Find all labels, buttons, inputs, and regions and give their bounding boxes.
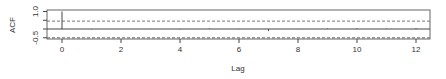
x-tick-label: 10 [353,45,362,54]
x-tick-label: 0 [60,45,65,54]
x-axis: 024681012 [60,39,421,54]
x-tick-label: 8 [296,45,301,54]
acf-chart: 024681012 -0.51.0 Lag ACF [0,0,446,79]
y-tick-label: 1.0 [31,5,40,17]
x-tick-label: 6 [237,45,242,54]
y-tick-label: -0.5 [31,30,40,44]
x-tick-label: 12 [412,45,421,54]
x-tick-label: 4 [178,45,183,54]
y-axis-title: ACF [8,17,17,33]
x-axis-title: Lag [231,64,244,73]
plot-frame [47,10,430,39]
y-axis: -0.51.0 [31,5,47,44]
plot-border [47,10,430,39]
x-tick-label: 2 [119,45,124,54]
